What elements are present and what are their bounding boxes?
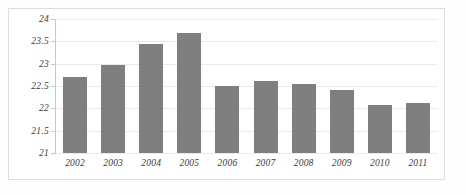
y-tick-label: 24: [5, 14, 49, 24]
y-tick-label: 22: [5, 103, 49, 113]
y-axis-tick-labels: 2423.52322.52221.521: [0, 0, 49, 195]
y-tick-label: 21.5: [5, 126, 49, 136]
y-tick-label: 23: [5, 59, 49, 69]
y-tick-label: 23.5: [5, 36, 49, 46]
x-tick-label: 2011: [396, 158, 440, 168]
x-axis-tick-labels: 2002200320042005200620072008200920102011: [56, 0, 437, 195]
bar-chart-figure: 2423.52322.52221.521 2002200320042005200…: [0, 0, 466, 195]
y-tick-label: 22.5: [5, 81, 49, 91]
y-tick-label: 21: [5, 148, 49, 158]
